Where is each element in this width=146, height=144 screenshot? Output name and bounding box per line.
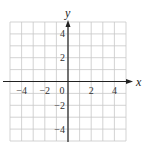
x-tick-label: −4 — [16, 85, 27, 96]
axes — [3, 20, 133, 142]
x-tick-label: 4 — [112, 85, 117, 96]
x-tick-label: −2 — [39, 85, 50, 96]
x-axis-label: x — [135, 75, 142, 89]
y-tick-label: −2 — [54, 100, 65, 111]
x-tick-label: 0 — [60, 85, 65, 96]
y-axis-arrow-icon — [66, 20, 71, 27]
x-axis-arrow-icon — [126, 79, 133, 84]
coordinate-plane: −4−202442−2−4 x y — [0, 0, 146, 144]
y-tick-label: −4 — [54, 124, 65, 135]
y-axis-label: y — [64, 6, 71, 20]
y-tick-label: 4 — [60, 28, 65, 39]
y-tick-label: 2 — [60, 52, 65, 63]
x-tick-label: 2 — [89, 85, 94, 96]
